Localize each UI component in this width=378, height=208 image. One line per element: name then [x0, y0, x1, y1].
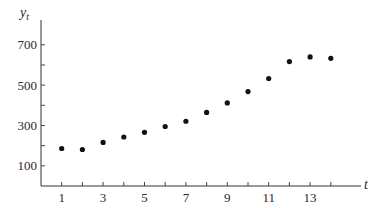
data-point [183, 119, 188, 124]
data-point [266, 76, 271, 81]
x-axis-label: t [364, 177, 369, 192]
x-tick-label: 5 [141, 190, 148, 205]
y-axis-label-subscript: t [26, 11, 29, 22]
data-points [59, 54, 333, 152]
data-point [59, 146, 64, 151]
ticks [41, 45, 331, 186]
x-tick-label: 11 [262, 190, 275, 205]
y-axis-label: yt [18, 5, 29, 22]
y-tick-label: 500 [18, 78, 38, 93]
data-point [142, 130, 147, 135]
x-tick-label: 3 [100, 190, 107, 205]
data-point [308, 54, 313, 59]
data-point [121, 134, 126, 139]
data-point [204, 110, 209, 115]
data-point [245, 89, 250, 94]
data-point [225, 100, 230, 105]
y-tick-label: 700 [18, 37, 38, 52]
x-tick-label: 1 [58, 190, 65, 205]
x-tick-label: 7 [183, 190, 190, 205]
data-point [163, 124, 168, 129]
data-point [80, 147, 85, 152]
data-point [287, 59, 292, 64]
tick-labels: 135791113100300500700 [18, 37, 317, 205]
data-point [328, 56, 333, 61]
scatter-chart: 135791113100300500700 yt t [0, 0, 378, 208]
x-tick-label: 13 [304, 190, 317, 205]
y-tick-label: 100 [18, 158, 38, 173]
axes [41, 20, 361, 186]
y-tick-label: 300 [18, 118, 38, 133]
data-point [101, 140, 106, 145]
x-tick-label: 9 [224, 190, 231, 205]
